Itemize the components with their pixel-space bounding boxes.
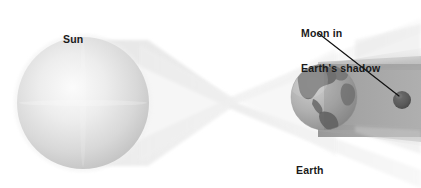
earth-label-text: Earth bbox=[296, 165, 324, 177]
moon-shadow-label-line1: Moon in bbox=[301, 28, 380, 40]
moon-shadow-label-line2: Earth's shadow bbox=[301, 63, 380, 75]
earth-label: Earth bbox=[296, 142, 324, 188]
eclipse-diagram: Sun Earth Moon in Earth's shadow bbox=[0, 0, 421, 188]
moon-shadow-label: Moon in Earth's shadow bbox=[301, 5, 380, 97]
sun-label: Sun bbox=[63, 11, 83, 69]
sun-label-text: Sun bbox=[63, 34, 83, 46]
